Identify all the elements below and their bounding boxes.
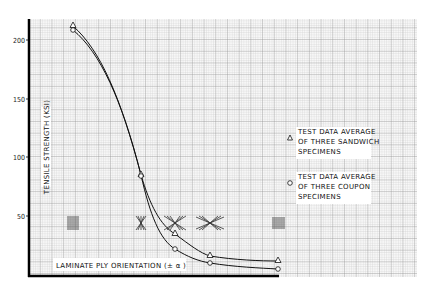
circle-icon (208, 261, 213, 266)
tensile-strength-chart: 200 150 100 50 TENSILE STRENGTH (KSI) LA… (0, 0, 431, 293)
circle-icon (276, 267, 281, 272)
circle-icon (71, 28, 76, 33)
x-axis-label: LAMINATE PLY ORIENTATION (± α ) (53, 258, 186, 271)
svg-text:OF THREE COUPON: OF THREE COUPON (298, 183, 370, 191)
svg-text:SPECIMENS: SPECIMENS (298, 193, 341, 201)
y-tick-100: 100 (13, 154, 25, 162)
svg-text:TEST DATA AVERAGE: TEST DATA AVERAGE (297, 173, 376, 181)
svg-text:TENSILE STRENGTH (KSI): TENSILE STRENGTH (KSI) (43, 100, 51, 195)
legend-sandwich: TEST DATA AVERAGE OF THREE SANDWICH SPEC… (288, 127, 380, 159)
y-ticks: 200 150 100 50 (13, 37, 29, 221)
legend-coupon: TEST DATA AVERAGE OF THREE COUPON SPECIM… (288, 172, 376, 204)
y-tick-200: 200 (13, 37, 25, 45)
svg-text:LAMINATE PLY ORIENTATION (± α: LAMINATE PLY ORIENTATION (± α ) (56, 262, 186, 270)
circle-icon (288, 181, 293, 186)
svg-text:SPECIMENS: SPECIMENS (298, 148, 341, 156)
svg-text:OF THREE SANDWICH: OF THREE SANDWICH (298, 138, 379, 146)
circle-icon (139, 174, 144, 179)
circle-icon (173, 247, 178, 252)
y-axis-label: TENSILE STRENGTH (KSI) (41, 100, 51, 195)
y-tick-50: 50 (17, 213, 25, 221)
y-tick-150: 150 (13, 96, 25, 104)
svg-text:TEST DATA AVERAGE: TEST DATA AVERAGE (297, 128, 376, 136)
